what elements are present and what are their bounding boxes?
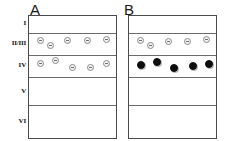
panel-b-layer-ii-iii [129, 34, 216, 55]
marker-open-circle [52, 57, 59, 64]
cortical-layer-figure: A B I II/III IV V VI [0, 0, 231, 141]
marker-filled-circle [205, 60, 213, 68]
panel-a-layer-i [29, 16, 116, 33]
panel-a [28, 15, 117, 139]
layer-label-vi: VI [0, 118, 26, 125]
panel-b [128, 15, 217, 139]
marker-open-circle [103, 60, 110, 67]
panel-a-layer-iv [29, 56, 116, 77]
marker-open-circle [103, 36, 110, 43]
marker-open-circle [37, 37, 44, 44]
panel-b-layer-v [129, 78, 216, 105]
marker-open-circle [37, 60, 44, 67]
marker-open-circle [64, 37, 71, 44]
marker-open-circle [69, 64, 76, 71]
panel-b-layer-iv [129, 56, 216, 77]
layer-label-iv: IV [0, 62, 26, 69]
panel-a-layer-ii-iii [29, 34, 116, 55]
marker-open-circle [165, 38, 172, 45]
layer-label-i: I [0, 20, 26, 27]
marker-open-circle [137, 37, 144, 44]
marker-open-circle [184, 38, 191, 45]
marker-open-circle [87, 64, 94, 71]
panel-a-layer-vi [29, 106, 116, 138]
marker-filled-circle [153, 58, 161, 66]
panel-b-layer-i [129, 16, 216, 33]
marker-open-circle [203, 36, 210, 43]
marker-open-circle [84, 37, 91, 44]
layer-label-v: V [0, 88, 26, 95]
marker-filled-circle [189, 62, 197, 70]
layer-label-column: I II/III IV V VI [0, 15, 28, 140]
layer-label-ii-iii: II/III [0, 40, 26, 47]
marker-filled-circle [170, 64, 178, 72]
panel-b-layer-vi [129, 106, 216, 138]
marker-filled-circle [137, 61, 145, 69]
marker-open-circle [47, 42, 54, 49]
marker-open-circle [147, 42, 154, 49]
panel-a-layer-v [29, 78, 116, 105]
